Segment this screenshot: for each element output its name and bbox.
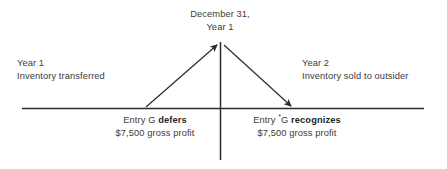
left-entry-caption: Entry G defers $7,500 gross profit (85, 114, 225, 139)
apex-date-line1: December 31, (160, 8, 280, 21)
right-period-caption: Year 2 Inventory sold to outsider (302, 57, 447, 82)
right-entry-label-line: Entry *G recognizes (222, 114, 372, 127)
left-entry-amount: $7,500 gross profit (85, 127, 225, 140)
left-entry-emphasis: defers (158, 115, 187, 125)
right-entry-prefix: Entry (253, 115, 278, 125)
left-period-caption: Year 1 Inventory transferred (17, 57, 177, 82)
left-period-event: Inventory transferred (17, 70, 177, 83)
left-entry-label-line: Entry G defers (85, 114, 225, 127)
right-entry-caption: Entry *G recognizes $7,500 gross profit (222, 114, 372, 139)
right-entry-amount: $7,500 gross profit (222, 127, 372, 140)
left-period-year: Year 1 (17, 57, 177, 70)
timeline-diagram: December 31, Year 1 Year 1 Inventory tra… (0, 0, 447, 169)
right-entry-emphasis: recognizes (291, 115, 341, 125)
left-entry-prefix: Entry G (123, 115, 158, 125)
apex-date-caption: December 31, Year 1 (160, 8, 280, 33)
right-period-event: Inventory sold to outsider (302, 70, 447, 83)
right-entry-mid: G (281, 115, 291, 125)
apex-date-line2: Year 1 (160, 21, 280, 34)
right-recognition-arrow (224, 45, 291, 106)
right-period-year: Year 2 (302, 57, 447, 70)
